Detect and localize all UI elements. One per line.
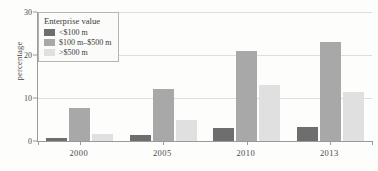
bar [236,51,257,141]
bar [46,138,67,141]
chart-legend: Enterprise value <$100 m$100 m–$500 m>$5… [38,12,119,62]
y-axis-tick-mark [33,12,37,13]
legend-swatch-icon [44,39,55,46]
y-axis-tick-mark [33,55,37,56]
y-axis-tick-label: 0 [18,137,32,146]
bar-group [297,12,364,141]
x-axis-tick-label: 2005 [153,148,172,158]
legend-swatch-icon [44,29,55,36]
y-axis-tick-label: 20 [18,51,32,60]
x-axis-tick-labels: 2000200520102013 [37,148,371,162]
legend-items: <$100 m$100 m–$500 m>$500 m [44,28,111,57]
bar [213,128,234,141]
legend-item-label: <$100 m [59,28,88,37]
x-axis-tick-mark [163,141,164,145]
x-axis-tick-mark [372,141,373,145]
y-axis-tick-mark [33,98,37,99]
x-axis-tick-label: 2000 [69,148,88,158]
legend-swatch-icon [44,49,55,56]
bar [92,134,113,141]
legend-item: <$100 m [44,28,111,37]
bar [259,85,280,141]
x-axis-tick-mark [38,141,39,145]
legend-title: Enterprise value [44,16,111,26]
y-axis-tick-label: 10 [18,94,32,103]
bar [320,42,341,141]
bar-group [130,12,197,141]
bar [130,135,151,141]
bar [69,108,90,141]
legend-item: $100 m–$500 m [44,38,111,47]
bar-chart-figure: percentage 0102030 2000200520102013 Ente… [0,0,378,171]
x-axis-tick-label: 2010 [236,148,255,158]
legend-item-label: >$500 m [59,48,88,57]
legend-item-label: $100 m–$500 m [59,38,111,47]
y-axis-tick-mark [33,141,37,142]
y-axis-tick-label: 30 [18,8,32,17]
y-axis-tick-labels: 0102030 [18,0,32,171]
bar [297,127,318,141]
x-axis-tick-label: 2013 [320,148,339,158]
x-axis-tick-mark [247,141,248,145]
bar [343,92,364,141]
x-axis-tick-mark [330,141,331,145]
bar-group [213,12,280,141]
bar [153,89,174,141]
bar [176,120,197,142]
x-axis-tick-mark [80,141,81,145]
legend-item: >$500 m [44,48,111,57]
